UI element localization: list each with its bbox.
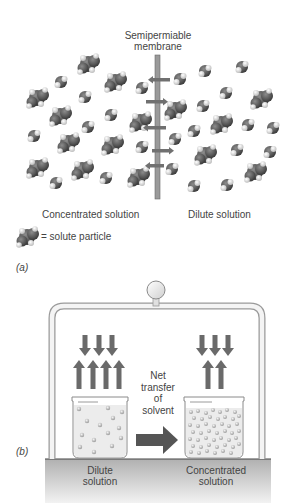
concentrated-beaker-label: Concentrated solution [176, 465, 256, 487]
membrane-label-line2: membrane [118, 41, 198, 52]
right-beaker [184, 397, 244, 458]
dilute-beaker-label-line1: Dilute [70, 465, 130, 476]
net-transfer-line3: of [128, 393, 188, 405]
concentrated-solution-label: Concentrated solution [42, 209, 139, 220]
dilute-solution-label: Dilute solution [188, 209, 251, 220]
legend-label: = solute particle [41, 231, 111, 242]
osmosis-diagram [0, 0, 291, 503]
panel-b-label: (b) [16, 446, 28, 457]
net-transfer-line2: transfer [128, 382, 188, 394]
dilute-beaker-label: Dilute solution [70, 465, 130, 487]
left-solution-molecules [26, 53, 152, 189]
bell-jar-knob [147, 281, 165, 299]
concentrated-beaker-label-line1: Concentrated [176, 465, 256, 476]
right-solution-molecules [164, 61, 279, 192]
net-transfer-label: Net transfer of solvent [128, 370, 188, 416]
net-transfer-arrow [136, 426, 178, 454]
membrane-label: Semipermiable membrane [118, 30, 198, 52]
concentrated-beaker-label-line2: solution [176, 476, 256, 487]
net-transfer-line4: solvent [128, 405, 188, 417]
left-vapor-arrows [73, 335, 125, 389]
dilute-beaker-label-line2: solution [70, 476, 130, 487]
net-transfer-line1: Net [128, 370, 188, 382]
left-beaker [72, 397, 128, 458]
right-vapor-arrows [196, 335, 234, 389]
legend-solute-icon [16, 226, 39, 248]
panel-a-label: (a) [16, 262, 28, 273]
membrane-label-line1: Semipermiable [118, 30, 198, 41]
